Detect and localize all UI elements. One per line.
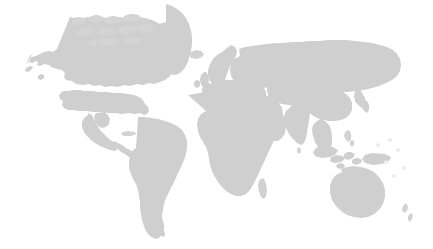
world-map-svg [0,0,433,249]
world-map-figure [0,0,433,249]
